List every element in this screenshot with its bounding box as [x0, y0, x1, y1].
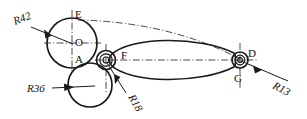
point-labels-group: E O A F D G — [75, 8, 256, 84]
engineering-drawing-canvas: E O A F D G R42 R36 R18 R13 — [0, 0, 307, 119]
drawing-svg: E O A F D G R42 R36 R18 R13 — [0, 0, 307, 119]
radius-label-R42: R42 — [10, 9, 32, 27]
point-label-E: E — [75, 8, 82, 20]
point-label-D: D — [248, 47, 256, 59]
radius-label-R36: R36 — [26, 82, 45, 94]
radius-label-R13: R13 — [270, 79, 293, 98]
radius-labels-group: R42 R36 R18 R13 — [10, 9, 292, 114]
leader-line-R13 — [241, 61, 288, 81]
point-label-G: G — [234, 72, 242, 84]
point-label-F: F — [121, 49, 127, 61]
point-label-A: A — [75, 53, 83, 65]
leader-line-R36 — [52, 86, 95, 88]
point-label-O: O — [75, 36, 83, 48]
centerline-arc-E-to-D — [78, 20, 240, 59]
radius-label-R18: R18 — [126, 91, 146, 114]
centerlines-group — [44, 10, 258, 92]
leader-arrowhead-R13 — [253, 66, 262, 74]
